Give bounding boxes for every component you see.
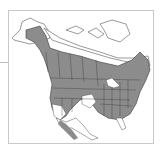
florida-land bbox=[116, 118, 126, 130]
arctic-islands bbox=[66, 20, 130, 42]
range-map bbox=[0, 0, 160, 149]
